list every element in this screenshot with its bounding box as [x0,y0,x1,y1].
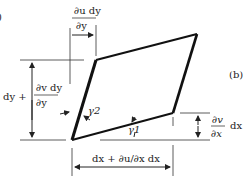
label-dv-dx-numerator: ∂v [212,114,223,125]
label-dv-dx-denominator: ∂x [211,128,222,139]
bottom-edge [72,113,173,140]
label-gamma2: γ2 [88,105,100,116]
left-edge [72,60,96,140]
panel-label: (b) [229,69,243,80]
label-dv-dx-suffix: dx [230,120,242,131]
label-dy-prefix: dy + [3,91,27,102]
label-dv-dy-numerator: ∂v dy [36,82,62,93]
label-dx-du-dx: dx + ∂u/∂x dx [92,153,160,164]
right-edge [173,34,197,113]
label-gamma1: γ1 [128,124,140,135]
cropped-panel-label: ) [0,11,2,22]
label-dv-dy-denominator: ∂y [36,97,47,108]
label-du-dy-numerator: ∂u dy [74,5,101,16]
label-du-dy-denominator: ∂y [76,20,87,31]
top-edge [96,34,197,60]
shear-deformation-diagram: ) [0,0,249,184]
